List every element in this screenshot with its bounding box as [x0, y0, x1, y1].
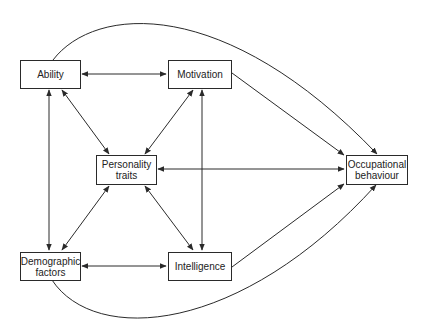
- node-occupational-label-line1: Occupational: [348, 159, 406, 170]
- node-ability: Ability: [20, 60, 81, 89]
- node-intelligence-label: Intelligence: [175, 261, 226, 272]
- node-ability-label: Ability: [37, 69, 64, 80]
- node-occupational-label-line2: behaviour: [355, 170, 399, 181]
- node-motivation-label: Motivation: [177, 69, 223, 80]
- node-occupational-behaviour: Occupational behaviour: [346, 155, 408, 185]
- node-demographic-factors: Demographic factors: [20, 252, 81, 281]
- node-demographic-label-line2: factors: [35, 267, 65, 278]
- edge-motivation-personality: [145, 90, 193, 154]
- edge-personality-intelligence: [145, 186, 193, 250]
- node-personality-label-line2: traits: [116, 170, 138, 181]
- edge-motivation-occupational: [232, 73, 344, 155]
- node-demographic-label-line1: Demographic: [21, 256, 80, 267]
- node-personality-label-line1: Personality: [102, 159, 151, 170]
- node-personality-traits: Personality traits: [96, 155, 157, 185]
- edge-intelligence-occupational: [232, 184, 344, 267]
- edge-ability-personality: [62, 90, 109, 154]
- node-motivation: Motivation: [168, 60, 232, 89]
- node-intelligence: Intelligence: [168, 252, 232, 281]
- edge-personality-demographic: [62, 186, 109, 250]
